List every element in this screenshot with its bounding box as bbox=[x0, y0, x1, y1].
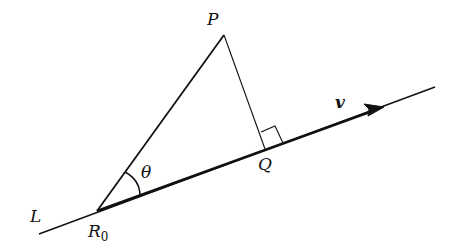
diagram-canvas: P Q L R0 v θ bbox=[0, 0, 464, 250]
label-v: v bbox=[335, 94, 345, 111]
label-R0-main: R bbox=[88, 221, 101, 241]
angle-arc-theta bbox=[125, 172, 140, 196]
segment-R0-P bbox=[97, 35, 224, 211]
right-angle-marker bbox=[261, 126, 283, 143]
label-R0-sub: 0 bbox=[101, 230, 109, 244]
segment-P-Q bbox=[224, 35, 265, 149]
diagram-svg bbox=[0, 0, 464, 250]
label-theta: θ bbox=[141, 164, 151, 181]
vector-v bbox=[97, 109, 378, 211]
label-L: L bbox=[30, 208, 41, 225]
label-R0: R0 bbox=[88, 223, 108, 243]
label-Q: Q bbox=[258, 156, 272, 173]
label-P: P bbox=[207, 11, 218, 28]
